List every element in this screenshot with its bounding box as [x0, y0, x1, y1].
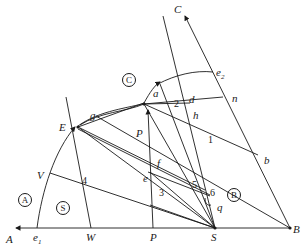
diagram-lines	[0, 0, 305, 245]
label-C: C	[174, 4, 181, 15]
label-e1-sub: 1	[38, 238, 42, 245]
label-a: a	[153, 88, 159, 99]
diagram-canvas: A e1 W P S B C e2 n b a d h g E P e f V …	[0, 0, 305, 245]
point-1-label: 1	[208, 135, 213, 145]
line-a-S	[160, 84, 215, 228]
label-P-upper: P	[136, 128, 143, 139]
line-g-B	[96, 116, 290, 228]
point-4-label: 4	[82, 176, 87, 186]
label-P-lower: P	[150, 232, 157, 243]
label-S: S	[211, 232, 217, 243]
label-d: d	[189, 94, 195, 105]
line-P-vertical	[148, 110, 153, 228]
label-V: V	[37, 170, 44, 181]
point-5-label: 5	[192, 180, 197, 190]
label-e1: e1	[33, 232, 41, 245]
label-q: q	[217, 202, 223, 213]
label-E: E	[59, 122, 66, 133]
point-2-label: 2	[174, 99, 179, 109]
point-B	[288, 226, 291, 229]
line-lower-S	[150, 205, 215, 228]
region-A: A	[18, 193, 32, 207]
point-3-label: 3	[159, 188, 164, 198]
label-W: W	[86, 232, 95, 243]
point-6-label: 6	[210, 188, 215, 198]
region-C: C	[122, 73, 136, 87]
label-A: A	[6, 234, 13, 245]
point-E	[76, 125, 79, 128]
region-S: S	[56, 201, 70, 215]
label-e2-sub: 2	[221, 73, 225, 81]
line-S-top	[163, 16, 215, 228]
line-P-S	[144, 104, 215, 228]
label-h: h	[193, 110, 199, 121]
point-P	[142, 102, 145, 105]
label-e2: e2	[216, 67, 224, 81]
label-n: n	[232, 93, 238, 104]
line-e-6	[148, 172, 210, 196]
label-g: g	[90, 110, 96, 121]
label-f: f	[157, 158, 160, 169]
point-S	[213, 226, 216, 229]
label-B: B	[293, 224, 300, 235]
label-b: b	[264, 155, 270, 166]
arc-a-e2	[158, 72, 213, 84]
line-V-S	[50, 173, 215, 228]
region-B: B	[227, 188, 241, 202]
line-E-P	[78, 103, 144, 127]
label-e: e	[143, 173, 148, 184]
